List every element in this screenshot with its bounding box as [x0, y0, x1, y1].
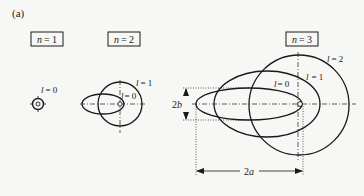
n1-l0-label: l= 0 [41, 85, 58, 95]
n3-label: n= 3 [292, 34, 312, 45]
n3-nucleus [298, 102, 303, 107]
n1-label: n= 1 [37, 34, 57, 45]
group-n3: n= 3 l= 0 l= 1 l= 2 2b [172, 32, 356, 177]
n2-l1-label: l= 1 [136, 78, 152, 88]
group-n1: n= 1 l= 0 [30, 32, 63, 112]
bohr-sommerfeld-orbits-diagram: (a) n= 1 l= 0 n= 2 l= 0 l= 1 [0, 0, 364, 196]
n3-l2-label: l= 2 [327, 54, 343, 64]
group-n2: n= 2 l= 0 l= 1 [80, 32, 152, 133]
minor-axis-label: 2b [172, 99, 182, 110]
major-axis-label: 2a [244, 166, 254, 177]
n2-nucleus [118, 102, 122, 106]
n3-l1-label: l= 1 [306, 72, 323, 82]
n3-l0-label: l= 0 [274, 79, 290, 89]
n1-l0-orbit [33, 99, 44, 110]
panel-label: (a) [12, 7, 25, 20]
n2-l0-label: l= 0 [121, 91, 137, 101]
n2-label: n= 2 [114, 34, 134, 45]
